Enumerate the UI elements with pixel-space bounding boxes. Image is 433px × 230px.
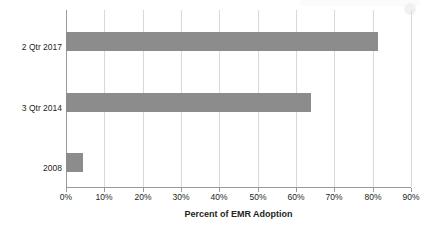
x-tick-label-60: 60% [276,192,316,203]
x-tick-label-70: 70% [314,192,354,203]
gridline-90 [411,10,412,187]
y-axis-label-0: 2 Qtr 2017 [2,42,62,52]
y-axis-label-2: 2008 [2,163,62,173]
scan-smudge-artifact [300,0,420,6]
x-tick-label-80: 80% [353,192,393,203]
plot-area [66,10,411,188]
x-tick-label-90: 90% [391,192,431,203]
x-tick-label-30: 30% [161,192,201,203]
bar-2-qtr-2017[interactable] [66,32,378,51]
y-axis-label-1: 3 Qtr 2014 [2,103,62,113]
bar-chart: 2 Qtr 2017 3 Qtr 2014 2008 [0,0,433,230]
x-tick-label-50: 50% [238,192,278,203]
bar-3-qtr-2014[interactable] [66,93,311,112]
y-axis-labels: 2 Qtr 2017 3 Qtr 2014 2008 [0,10,62,188]
x-tick-label-20: 20% [123,192,163,203]
x-tick-label-40: 40% [199,192,239,203]
x-tick-label-10: 10% [84,192,124,203]
bar-2008[interactable] [66,153,83,172]
x-tick-label-0: 0% [46,192,86,203]
x-axis-labels: 0% 10% 20% 30% 40% 50% 60% 70% 80% 90% [0,192,433,206]
x-axis-title: Percent of EMR Adoption [66,208,411,220]
